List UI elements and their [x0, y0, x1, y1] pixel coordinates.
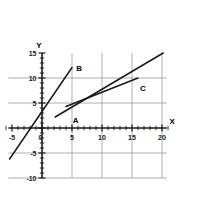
y-tick-label-10: 10: [29, 75, 37, 82]
y-axis-title: Y: [36, 42, 41, 50]
y-tick-label--10: -10: [26, 175, 36, 182]
y-tick-label--5: -5: [30, 150, 36, 157]
x-axis-title: X: [169, 118, 174, 126]
x-tick-label-5: 5: [70, 134, 74, 141]
series-label-a: A: [73, 117, 79, 125]
x-tick-label-10: 10: [98, 134, 106, 141]
x-tick-label--5: -5: [9, 134, 15, 141]
x-tick-label-0: 0: [39, 134, 43, 141]
y-tick-label-5: 5: [33, 100, 37, 107]
series-label-b: B: [76, 65, 82, 73]
series-label-c: C: [140, 85, 146, 93]
y-tick-label-15: 15: [29, 50, 37, 57]
x-tick-label-20: 20: [158, 134, 166, 141]
x-tick-label-15: 15: [128, 134, 136, 141]
data-line-a: [55, 53, 163, 117]
line-chart: -505101520-10-551015XYBAC: [0, 0, 202, 208]
